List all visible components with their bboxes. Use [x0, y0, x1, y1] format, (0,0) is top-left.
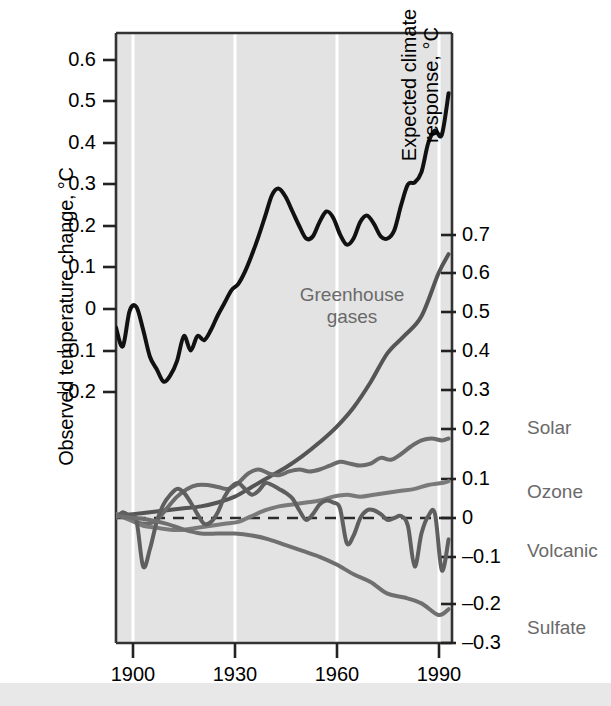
right-tick-label-4: 0.3 [462, 378, 490, 401]
right-tick-label-8: –0.1 [462, 545, 501, 568]
right-axis-title-wrap: Expected climate response, °C [398, 0, 438, 200]
left-axis-ticks [103, 60, 116, 392]
greenhouse-label-line2: gases [282, 306, 422, 328]
right-axis-title: Expected climate response, °C [398, 0, 442, 200]
series-label-greenhouse-gases: Greenhouse gases [282, 284, 422, 328]
greenhouse-label-line1: Greenhouse [282, 284, 422, 306]
left-tick-label-3: 0.3 [18, 172, 96, 195]
left-tick-label-0: 0.6 [18, 48, 96, 71]
series-label-ozone: Ozone [527, 481, 583, 503]
right-tick-label-2: 0.5 [462, 300, 490, 323]
left-tick-label-7: –0.1 [18, 339, 96, 362]
right-tick-label-0: 0.7 [462, 223, 490, 246]
left-tick-label-1: 0.5 [18, 89, 96, 112]
right-tick-label-9: –0.2 [462, 592, 501, 615]
right-tick-label-10: –0.3 [462, 631, 501, 654]
series-label-volcanic: Volcanic [527, 540, 598, 562]
left-tick-label-8: –0.2 [18, 380, 96, 403]
left-tick-label-5: 0.1 [18, 255, 96, 278]
left-tick-label-6: 0 [18, 297, 96, 320]
right-tick-label-1: 0.6 [462, 261, 490, 284]
right-tick-label-7: 0 [462, 506, 473, 529]
climate-attribution-chart: Observed temperature change, °C Expected… [0, 0, 611, 706]
left-tick-label-4: 0.2 [18, 214, 96, 237]
right-tick-label-3: 0.4 [462, 339, 490, 362]
series-label-solar: Solar [527, 417, 571, 439]
right-tick-label-6: 0.1 [462, 467, 490, 490]
page-bottom-band [0, 683, 611, 706]
x-axis-ticks [133, 643, 439, 658]
left-tick-label-2: 0.4 [18, 131, 96, 154]
series-label-sulfate: Sulfate [527, 617, 586, 639]
right-tick-label-5: 0.2 [462, 417, 490, 440]
